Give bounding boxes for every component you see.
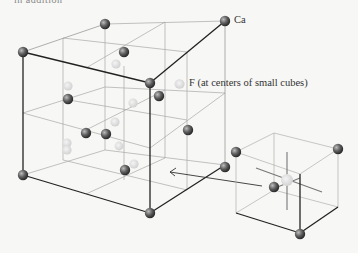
ca-label: Ca	[234, 14, 246, 25]
f-label: F (at centers of small cubes)	[189, 77, 308, 88]
fluorite-crystal-diagram	[0, 0, 358, 253]
inset-small-cube	[231, 133, 343, 239]
f-legend-atom	[175, 79, 184, 88]
